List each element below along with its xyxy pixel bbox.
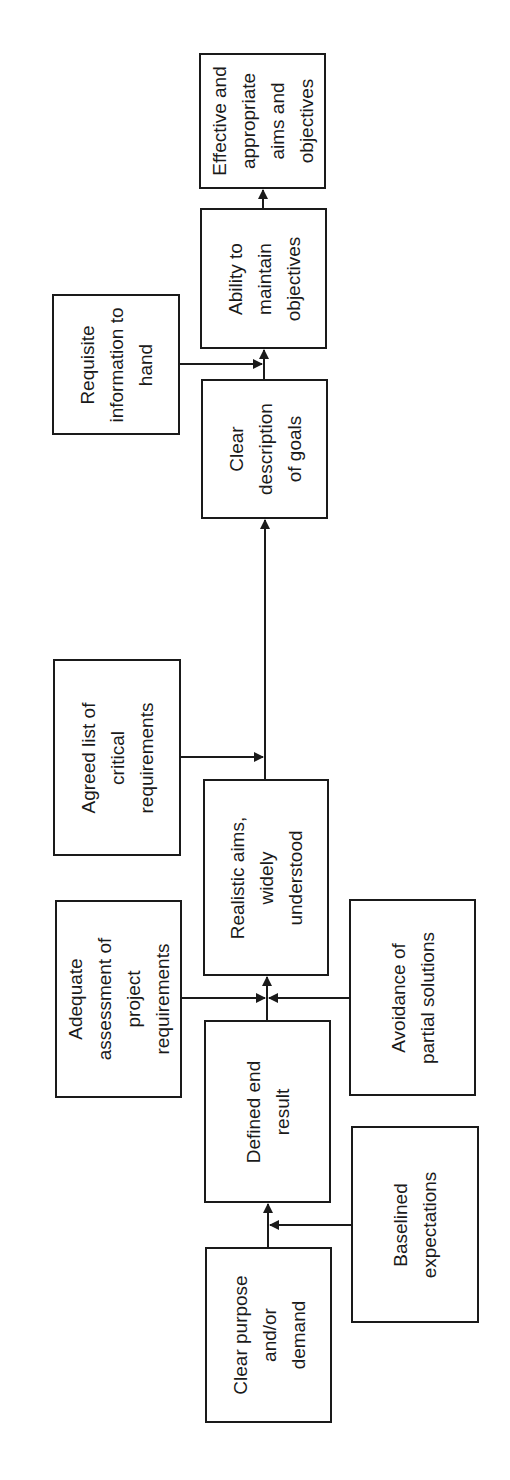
node-clear-description: Clear description of goals: [201, 379, 328, 519]
node-baselined-expectations: Baselined expectations: [351, 1126, 479, 1323]
node-label: Avoidance of partial solutions: [384, 931, 442, 1063]
node-realistic-aims: Realistic aims, widely understood: [203, 779, 329, 976]
node-label: Clear purpose and/or demand: [225, 1275, 312, 1394]
node-label: Baselined expectations: [386, 1171, 444, 1278]
diagram-canvas: Effective and appropriate aims and objec…: [0, 0, 510, 1480]
node-ability-to-maintain: Ability to maintain objectives: [200, 208, 327, 349]
node-label: Ability to maintain objectives: [220, 236, 307, 321]
node-label: Clear description of goals: [221, 403, 308, 495]
node-avoidance-partial: Avoidance of partial solutions: [349, 899, 476, 1096]
node-label: Effective and appropriate aims and objec…: [205, 66, 321, 176]
node-adequate-assessment: Adequate assessment of project requireme…: [55, 900, 182, 1098]
node-requisite-information: Requisite information to hand: [52, 294, 180, 435]
node-agreed-list: Agreed list of critical requirements: [53, 659, 181, 856]
node-defined-end-result: Defined end result: [204, 1020, 331, 1203]
node-clear-purpose: Clear purpose and/or demand: [205, 1247, 332, 1423]
node-label: Requisite information to hand: [73, 307, 160, 422]
node-label: Adequate assessment of project requireme…: [61, 938, 177, 1061]
node-label: Defined end result: [239, 1060, 297, 1162]
node-effective-aims: Effective and appropriate aims and objec…: [199, 53, 326, 189]
node-label: Agreed list of critical requirements: [74, 702, 161, 813]
node-label: Realistic aims, widely understood: [223, 816, 310, 938]
